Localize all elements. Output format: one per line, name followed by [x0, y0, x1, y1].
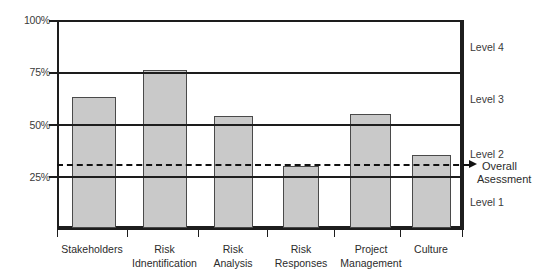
y-axis-label-25: 25% — [4, 171, 50, 183]
right-axis-line — [462, 20, 464, 230]
y-axis-label-100: 100% — [4, 14, 50, 26]
axis-baseline — [57, 228, 464, 230]
x-tick-6 — [462, 228, 463, 237]
x-label-line1: Risk — [291, 243, 311, 255]
x-tick-2 — [198, 228, 199, 237]
x-tick-1 — [127, 228, 128, 237]
bar-risk-idnentification — [143, 70, 187, 228]
y-axis-line — [57, 20, 59, 230]
risk-maturity-bar-chart: 100% 75% 50% 25% Level 4 Level 3 Level 2… — [0, 0, 548, 277]
overall-assessment-label-line2: Asessment — [477, 173, 531, 186]
bar-risk-responses — [283, 166, 319, 228]
overall-assessment-label-line1: Overall — [482, 160, 517, 173]
band-label-level-3: Level 3 — [470, 93, 504, 105]
x-label-culture: Culture — [396, 242, 466, 256]
x-label-line2: Analysis — [213, 257, 252, 269]
x-label-line1: Culture — [414, 243, 448, 255]
gridline-100 — [57, 20, 464, 22]
x-label-line1: Project — [355, 243, 388, 255]
band-label-level-4: Level 4 — [470, 41, 504, 53]
x-label-line1: Risk — [154, 243, 174, 255]
y-axis-label-50: 50% — [4, 119, 50, 131]
overall-assessment-line — [57, 164, 469, 166]
x-tick-4 — [334, 228, 335, 237]
y-tick-75 — [49, 72, 57, 74]
bar-project-management — [350, 114, 391, 228]
band-label-level-1: Level 1 — [470, 196, 504, 208]
x-tick-3 — [267, 228, 268, 237]
y-tick-25 — [49, 176, 57, 178]
y-axis-label-75: 75% — [4, 66, 50, 78]
x-tick-0 — [57, 228, 58, 237]
overall-assessment-arrow-icon — [469, 160, 477, 168]
bar-stakeholders — [72, 97, 116, 228]
bar-culture — [412, 155, 451, 228]
x-label-line1: Risk — [223, 243, 243, 255]
x-label-line2: Idnentification — [132, 257, 197, 269]
bar-risk-analysis — [214, 116, 253, 228]
y-tick-50 — [49, 124, 57, 126]
x-tick-5 — [400, 228, 401, 237]
band-label-level-2: Level 2 — [470, 148, 504, 160]
x-label-line2: Responses — [275, 257, 328, 269]
y-tick-100 — [49, 20, 57, 22]
gridline-75 — [57, 72, 464, 74]
gridline-50 — [57, 124, 464, 126]
gridline-25 — [57, 176, 464, 178]
x-label-line2: Management — [340, 257, 401, 269]
